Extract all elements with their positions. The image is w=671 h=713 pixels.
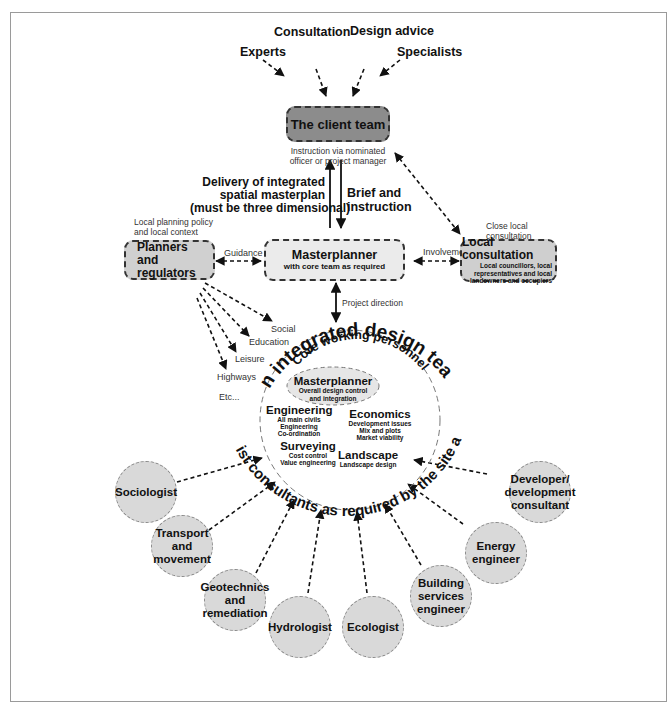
fan-label-highways: Highways	[217, 372, 256, 382]
planners-box: Planners and regulators	[124, 240, 215, 280]
client-team-title: The client team	[288, 117, 388, 132]
team-surveying: Surveying Cost control Value engineering	[278, 440, 338, 466]
input-label-design-advice: Design advice	[350, 24, 434, 38]
local-consultation-box: Local consultation Local councillors, lo…	[460, 239, 557, 282]
guidance-label: Guidance	[224, 248, 263, 258]
client-team-note: Instruction via nominated officer or pro…	[282, 146, 394, 166]
brief-label: Brief and instruction	[347, 186, 412, 214]
planners-context-label: Local planning policy and local context	[134, 217, 213, 237]
masterplanner-box: Masterplanner with core team as required	[264, 239, 405, 281]
delivery-label: Delivery of integrated spatial masterpla…	[190, 176, 325, 215]
team-landscape: Landscape Landscape design	[338, 449, 398, 468]
specialist-building-services: Buildingservicesengineer	[410, 565, 472, 627]
specialist-geotechnics: Geotechnicsandremediation	[204, 569, 266, 631]
project-direction-label: Project direction	[342, 298, 403, 308]
specialist-transport: Transportandmovement	[151, 515, 213, 577]
team-engineering: Engineering All main civils Engineering …	[266, 404, 332, 437]
fan-label-etc: Etc...	[219, 392, 240, 402]
specialist-developer: Developer/developmentconsultant	[509, 461, 571, 523]
fan-label-education: Education	[249, 337, 289, 347]
client-team-box: The client team	[286, 106, 390, 142]
specialist-hydrologist: Hydrologist	[269, 596, 331, 658]
input-label-experts: Experts	[240, 45, 286, 59]
team-economics: Economics Development issues Mix and plo…	[346, 408, 414, 441]
input-label-specialists: Specialists	[397, 45, 462, 59]
core-masterplanner: Masterplanner Overall design control and…	[287, 375, 379, 402]
specialist-ecologist: Ecologist	[342, 596, 404, 658]
fan-label-social: Social	[271, 324, 296, 334]
specialist-energy-engineer: Energyengineer	[465, 522, 527, 584]
fan-label-leisure: Leisure	[235, 354, 265, 364]
input-label-consultation: Consultation	[274, 25, 350, 39]
specialist-sociologist: Sociologist	[115, 461, 177, 523]
